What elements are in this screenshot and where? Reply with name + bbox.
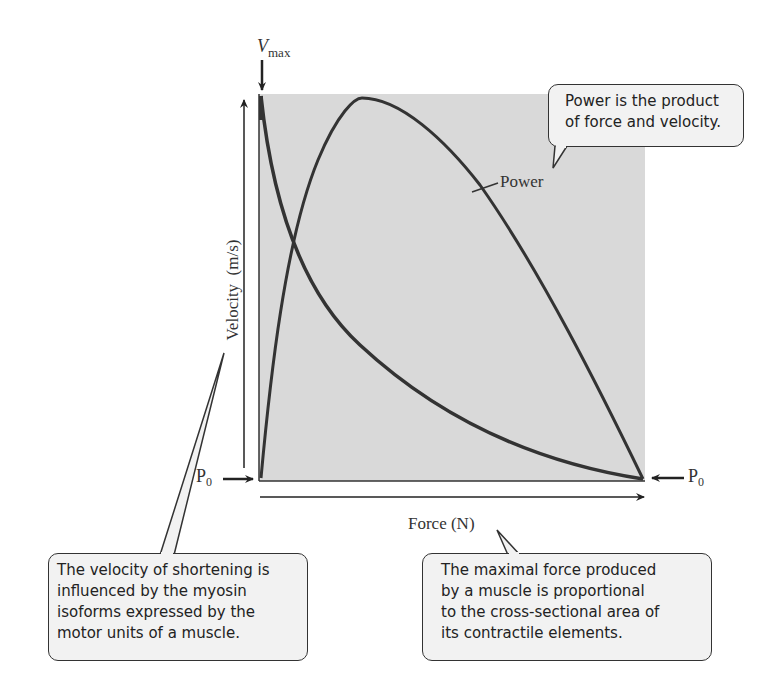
velocity-callout-line: motor units of a muscle.	[57, 623, 297, 644]
p0-right-label: P0	[688, 466, 704, 490]
velocity-callout-line: The velocity of shortening is	[57, 560, 297, 581]
force-callout-line: The maximal force produced	[441, 560, 701, 581]
vmax-label: Vmax	[257, 36, 290, 61]
velocity-callout-line: isoforms expressed by the	[57, 602, 297, 623]
power-callout-line: of force and velocity.	[565, 112, 733, 133]
force-callout-line: its contractile elements.	[441, 623, 701, 644]
force-callout-line: by a muscle is proportional	[441, 581, 701, 602]
velocity-callout: The velocity of shortening is influenced…	[48, 553, 308, 661]
y-axis-label: Velocity (m/s)	[223, 225, 243, 355]
x-axis-label: Force (N)	[408, 514, 475, 534]
power-callout-line: Power is the product	[565, 91, 733, 112]
force-callout: The maximal force produced by a muscle i…	[422, 553, 712, 661]
power-callout: Power is the product of force and veloci…	[548, 84, 744, 147]
velocity-callout-line: influenced by the myosin	[57, 581, 297, 602]
p0-left-label: P0	[196, 466, 212, 490]
power-curve-label: Power	[500, 172, 543, 192]
velocity-callout-tail	[160, 353, 224, 555]
force-callout-line: to the cross-sectional area of	[441, 602, 701, 623]
